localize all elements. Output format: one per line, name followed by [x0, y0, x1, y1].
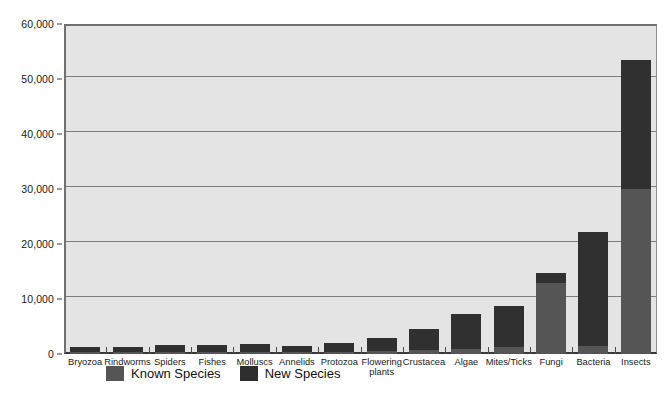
x-tick-mark [233, 347, 234, 354]
bar-segment-known-species[interactable] [324, 352, 354, 354]
stacked-bar[interactable] [282, 346, 312, 354]
x-tick-mark [361, 347, 362, 354]
x-tick-mark [191, 347, 192, 354]
legend-swatch-new-species [240, 366, 258, 381]
bar-segment-new-species[interactable] [324, 343, 354, 352]
y-tick-mark [57, 24, 62, 25]
bar-segment-known-species[interactable] [621, 189, 651, 354]
bar-segment-new-species[interactable] [451, 314, 481, 349]
bar-group[interactable] [494, 306, 524, 354]
bar-group[interactable] [409, 329, 439, 354]
stacked-bar[interactable] [324, 343, 354, 354]
stacked-bar[interactable] [578, 232, 608, 354]
bar-segment-known-species[interactable] [155, 352, 185, 354]
stacked-bar[interactable] [451, 314, 481, 354]
stacked-bar[interactable] [621, 60, 651, 354]
stacked-bar[interactable] [197, 345, 227, 354]
stacked-bar[interactable] [367, 338, 397, 354]
bar-segment-new-species[interactable] [621, 60, 651, 189]
bar-segment-known-species[interactable] [494, 347, 524, 354]
bar-segment-known-species[interactable] [367, 351, 397, 354]
y-tick-label: 50,000 [21, 73, 54, 85]
stacked-bar[interactable] [113, 347, 143, 354]
chart-legend: Known Species New Species [106, 366, 341, 381]
bar-segment-new-species[interactable] [494, 306, 524, 347]
x-tick-label: Insects [611, 357, 661, 367]
bar-segment-new-species[interactable] [155, 345, 185, 352]
stacked-bar[interactable] [409, 329, 439, 354]
y-tick-mark [57, 189, 62, 190]
bar-segment-new-species[interactable] [409, 329, 439, 350]
bar-group[interactable] [324, 343, 354, 354]
legend-swatch-known-species [106, 366, 124, 381]
x-tick-mark [445, 347, 446, 354]
bar-group[interactable] [367, 338, 397, 354]
bar-segment-new-species[interactable] [578, 232, 608, 346]
x-tick-mark [403, 347, 404, 354]
bar-segment-new-species[interactable] [282, 346, 312, 353]
bar-segment-known-species[interactable] [409, 350, 439, 354]
y-tick-mark [57, 79, 62, 80]
stacked-bar[interactable] [494, 306, 524, 354]
bar-segment-new-species[interactable] [367, 338, 397, 351]
x-tick-mark [149, 347, 150, 354]
bar-group[interactable] [578, 232, 608, 354]
y-axis: 60,00050,00040,00030,00020,00010,0000 [0, 24, 60, 354]
y-tick-label: 20,000 [21, 238, 54, 250]
x-tick-mark [318, 347, 319, 354]
bar-group[interactable] [155, 345, 185, 354]
bar-segment-new-species[interactable] [197, 345, 227, 352]
x-tick-mark [615, 347, 616, 354]
y-tick-label: 60,000 [21, 18, 54, 30]
stacked-bar[interactable] [240, 344, 270, 354]
bar-group[interactable] [451, 314, 481, 354]
x-tick-mark [488, 347, 489, 354]
bar-segment-known-species[interactable] [536, 283, 566, 355]
bar-segment-known-species[interactable] [240, 352, 270, 354]
legend-entry-new-species[interactable]: New Species [240, 366, 341, 381]
x-tick-mark [530, 347, 531, 354]
bar-group[interactable] [536, 273, 566, 354]
bar-group[interactable] [621, 60, 651, 354]
stacked-bar[interactable] [155, 345, 185, 354]
y-tick-label: 0 [48, 348, 54, 360]
y-tick-mark [57, 244, 62, 245]
stacked-bar[interactable] [70, 347, 100, 354]
legend-label-known-species: Known Species [131, 366, 221, 381]
x-tick-mark [572, 347, 573, 354]
y-tick-label: 10,000 [21, 293, 54, 305]
y-tick-mark [57, 134, 62, 135]
bar-group[interactable] [113, 347, 143, 354]
bar-segment-known-species[interactable] [197, 352, 227, 354]
bar-group[interactable] [70, 347, 100, 354]
x-tick-mark [106, 347, 107, 354]
bar-segment-new-species[interactable] [240, 344, 270, 352]
y-tick-mark [57, 354, 62, 355]
bar-chart-figure: 60,00050,00040,00030,00020,00010,0000 Br… [0, 0, 668, 403]
x-tick-mark [276, 347, 277, 354]
legend-label-new-species: New Species [265, 366, 341, 381]
bar-segment-known-species[interactable] [578, 346, 608, 354]
y-tick-mark [57, 299, 62, 300]
bar-segment-known-species[interactable] [113, 352, 143, 354]
bar-segment-new-species[interactable] [70, 347, 100, 352]
bars-layer [64, 24, 657, 354]
bar-group[interactable] [197, 345, 227, 354]
y-tick-label: 30,000 [21, 183, 54, 195]
bar-segment-known-species[interactable] [451, 349, 481, 354]
y-tick-label: 40,000 [21, 128, 54, 140]
bar-segment-new-species[interactable] [113, 347, 143, 352]
bar-group[interactable] [240, 344, 270, 354]
stacked-bar[interactable] [536, 273, 566, 354]
bar-segment-known-species[interactable] [282, 352, 312, 354]
bar-segment-new-species[interactable] [536, 273, 566, 283]
bar-segment-known-species[interactable] [70, 352, 100, 354]
bar-group[interactable] [282, 346, 312, 354]
legend-entry-known-species[interactable]: Known Species [106, 366, 221, 381]
